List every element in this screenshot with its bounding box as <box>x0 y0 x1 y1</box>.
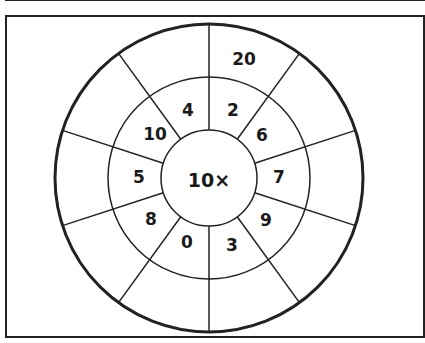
inner-ring-label: 6 <box>256 125 268 145</box>
center-multiplier-label: 10× <box>188 169 230 191</box>
inner-ring-label: 4 <box>182 100 194 120</box>
inner-ring-label: 10 <box>143 124 167 144</box>
inner-ring-label: 7 <box>273 167 285 187</box>
outer-ring-answer: 20 <box>232 49 256 69</box>
inner-ring-label: 0 <box>181 232 193 252</box>
inner-ring-label: 5 <box>133 167 145 187</box>
inner-ring-label: 8 <box>145 209 157 229</box>
inner-ring-label: 2 <box>227 100 239 120</box>
inner-ring-label: 9 <box>260 210 272 230</box>
inner-ring-label: 3 <box>226 235 238 255</box>
